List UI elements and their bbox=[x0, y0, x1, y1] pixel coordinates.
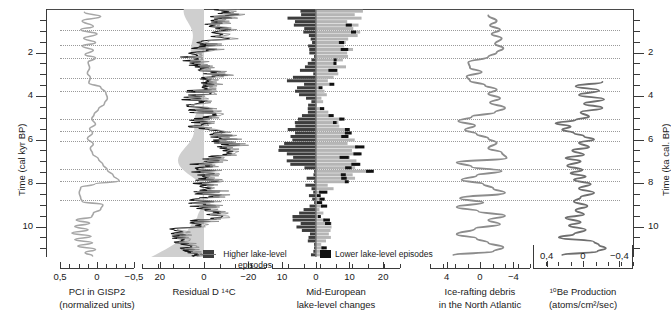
lower-lake-level-accent bbox=[319, 86, 323, 89]
y-axis-tick-label: 6 bbox=[648, 133, 653, 144]
higher-lake-level-bar bbox=[293, 156, 316, 159]
higher-lake-level-bar bbox=[292, 138, 315, 141]
y-axis-minor-tick bbox=[40, 74, 46, 75]
y-axis-minor-tick bbox=[40, 205, 46, 206]
lower-lake-level-accent bbox=[346, 24, 352, 27]
x-axis-major-tick bbox=[204, 262, 205, 268]
y-axis-minor-tick bbox=[634, 63, 640, 64]
panel-lake-level-plot bbox=[272, 9, 400, 257]
x-axis-tick-label: 10 bbox=[344, 271, 355, 282]
lower-lake-level-bar bbox=[316, 132, 348, 135]
higher-lake-level-bar bbox=[301, 222, 316, 225]
higher-lake-level-bar bbox=[308, 107, 316, 110]
lower-lake-level-bar bbox=[316, 180, 347, 183]
lower-lake-level-bar bbox=[316, 13, 355, 16]
y-axis-major-tick bbox=[634, 183, 644, 184]
x-axis-minor-tick bbox=[158, 264, 159, 268]
residual-d14c-series bbox=[142, 9, 266, 257]
y-axis-minor-tick bbox=[40, 150, 46, 151]
lake-level-zero-line bbox=[315, 9, 316, 257]
panel-title-lake-level-line2: lake-level changes bbox=[276, 299, 396, 312]
y-axis-minor-tick bbox=[634, 237, 640, 238]
lower-lake-level-bar bbox=[316, 55, 348, 58]
y-axis-minor-tick bbox=[634, 172, 640, 173]
higher-lake-level-bar bbox=[304, 27, 316, 30]
lower-lake-level-bar bbox=[316, 232, 329, 235]
y-axis-minor-tick bbox=[40, 20, 46, 21]
lower-lake-level-accent bbox=[340, 156, 349, 159]
higher-lake-level-bar bbox=[295, 125, 315, 128]
x-axis-tick-label: 0 bbox=[580, 250, 585, 261]
x-axis-minor-tick bbox=[571, 262, 572, 266]
x-axis-minor-tick bbox=[79, 264, 80, 268]
lower-lake-level-accent bbox=[339, 118, 344, 121]
higher-lake-level-bar bbox=[306, 97, 316, 100]
x-axis-minor-tick bbox=[596, 262, 597, 266]
y-axis-tick-label: 10 bbox=[22, 220, 33, 231]
x-axis-minor-tick bbox=[116, 264, 117, 268]
lower-lake-level-accent bbox=[341, 177, 347, 180]
y-axis-minor-tick bbox=[634, 248, 640, 249]
lower-lake-level-accent bbox=[341, 135, 348, 138]
lower-lake-level-bar bbox=[316, 17, 362, 20]
lower-lake-level-accent bbox=[320, 107, 324, 110]
lower-lake-level-bar bbox=[316, 184, 328, 187]
y-axis-minor-tick bbox=[634, 216, 640, 217]
higher-lake-level-bar bbox=[295, 20, 316, 23]
lake-level-series bbox=[272, 9, 400, 257]
y-axis-minor-tick bbox=[40, 194, 46, 195]
y-axis-minor-tick bbox=[634, 20, 640, 21]
higher-lake-level-bar bbox=[296, 225, 315, 228]
x-axis-tick-label: 20 bbox=[378, 271, 389, 282]
x-axis-tick-label: 10 bbox=[277, 271, 288, 282]
y-axis-major-tick bbox=[36, 183, 46, 184]
lower-lake-level-bar bbox=[316, 135, 345, 138]
x-axis-major-tick bbox=[134, 262, 135, 268]
lower-lake-level-bar bbox=[316, 38, 348, 41]
lower-lake-level-bar bbox=[316, 76, 334, 79]
lower-lake-level-bar bbox=[316, 152, 360, 155]
lower-lake-level-accent bbox=[319, 198, 324, 201]
x-axis-minor-tick bbox=[142, 264, 143, 268]
x-axis-minor-tick bbox=[88, 264, 89, 268]
x-axis-minor-tick bbox=[455, 264, 456, 268]
panel-title-be10-line1: ¹⁰Be Production bbox=[524, 286, 642, 299]
panel-be10-plot bbox=[538, 9, 630, 257]
lower-lake-level-accent bbox=[319, 191, 327, 194]
higher-lake-level-bar bbox=[311, 253, 316, 256]
x-axis-tick-label: 0 bbox=[94, 271, 99, 282]
lower-lake-level-accent bbox=[366, 170, 374, 173]
lower-lake-level-bar bbox=[316, 236, 331, 239]
higher-lake-level-bar bbox=[291, 135, 316, 138]
higher-lake-level-bar bbox=[308, 62, 316, 65]
higher-lake-level-annotation-line2: episodes bbox=[212, 260, 298, 271]
lower-lake-level-annotation: Lower lake-level episodes bbox=[335, 249, 433, 260]
lower-lake-level-bar bbox=[316, 149, 352, 152]
lower-lake-level-accent bbox=[353, 152, 361, 155]
lower-lake-level-bar bbox=[316, 65, 346, 68]
y-axis-tick-label: 8 bbox=[28, 176, 33, 187]
lower-lake-level-accent bbox=[355, 145, 364, 148]
x-axis-major-tick bbox=[583, 261, 584, 267]
lower-lake-level-bar bbox=[316, 20, 347, 23]
lower-lake-level-accent bbox=[317, 194, 321, 197]
x-axis-major-tick bbox=[97, 262, 98, 268]
y-axis-minor-tick bbox=[634, 118, 640, 119]
y-axis-tick-label: 6 bbox=[28, 133, 33, 144]
y-axis-minor-tick bbox=[634, 85, 640, 86]
lower-lake-level-bar bbox=[316, 212, 324, 215]
higher-lake-level-bar bbox=[301, 13, 316, 16]
x-axis-tick-label: 0,4 bbox=[540, 250, 553, 261]
x-axis-pci-gisp2 bbox=[60, 268, 134, 269]
y-axis-minor-tick bbox=[40, 85, 46, 86]
higher-lake-level-bar bbox=[288, 128, 316, 131]
y-axis-minor-tick bbox=[634, 42, 640, 43]
higher-lake-level-bar bbox=[310, 232, 316, 235]
lower-lake-level-bar bbox=[316, 83, 331, 86]
x-axis-major-tick bbox=[316, 262, 317, 268]
higher-lake-level-annotation: Higher lake-level episodes bbox=[212, 249, 298, 271]
x-axis-major-tick bbox=[513, 262, 514, 268]
panel-title-pci-gisp2: PCI in GISP2 (normalized units) bbox=[38, 286, 156, 311]
higher-lake-level-bar bbox=[293, 219, 316, 222]
